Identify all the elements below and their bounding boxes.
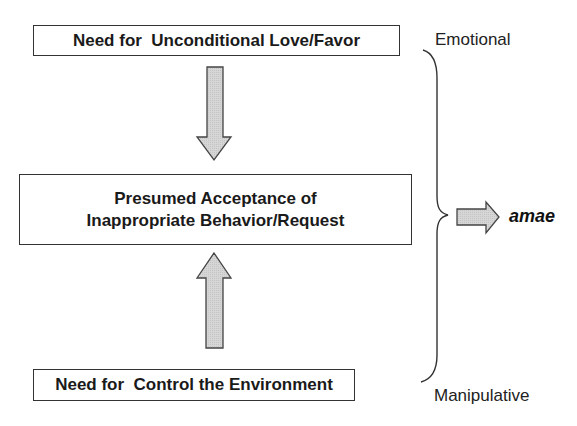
presumed-acceptance-line1: Presumed Acceptance of <box>114 188 317 210</box>
need-control-environment-text: Need for Control the Environment <box>55 375 333 395</box>
manipulative-label: Manipulative <box>434 386 529 406</box>
right-arrow-icon <box>457 202 499 233</box>
need-control-environment-box: Need for Control the Environment <box>33 369 355 401</box>
need-unconditional-love-box: Need for Unconditional Love/Favor <box>33 25 400 56</box>
emotional-label: Emotional <box>435 30 511 50</box>
amae-result: amae <box>509 206 555 227</box>
up-arrow-icon <box>197 253 231 348</box>
presumed-acceptance-box: Presumed Acceptance of Inappropriate Beh… <box>19 174 412 245</box>
down-arrow-icon <box>197 67 231 160</box>
need-unconditional-love-text: Need for Unconditional Love/Favor <box>73 31 360 51</box>
curly-brace-icon <box>421 50 448 382</box>
presumed-acceptance-line2: Inappropriate Behavior/Request <box>87 210 345 232</box>
